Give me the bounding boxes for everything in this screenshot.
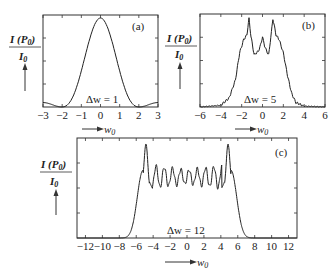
x-tick-label: 8 (252, 240, 258, 252)
x-tick-label: 4 (301, 109, 307, 121)
x-tick-label: 6 (235, 240, 241, 252)
x-tick-label: 0 (98, 109, 104, 121)
svg-text:w0: w0 (257, 123, 268, 137)
x-tick-label: −12 (77, 240, 94, 252)
svg-text:I0: I0 (18, 50, 27, 64)
y-axis-label-a: I (P0) I0 (9, 33, 41, 91)
x-tick-label: −2 (164, 240, 176, 252)
x-axis-label-c: w0 (165, 256, 208, 270)
x-axis-label-b: w0 (235, 123, 268, 137)
svg-text:I (P0): I (P0) (166, 32, 192, 46)
x-tick-label: −1 (75, 109, 87, 121)
panel-c: −12−10−8−6−4−2024681012 (c) Δw = 12 I (P… (40, 138, 297, 270)
x-tick-label: 2 (201, 240, 207, 252)
plot-frame-c (77, 138, 297, 238)
x-tick-label: −2 (56, 109, 68, 121)
annotation-b: Δw = 5 (244, 93, 277, 105)
x-tick-label: 12 (283, 240, 294, 252)
panel-a: −3−2−10123 (a) Δw = 1 I (P0) I0 w0 (9, 15, 161, 137)
x-tick-label: −4 (147, 240, 159, 252)
x-tick-label: −2 (236, 109, 248, 121)
svg-text:w0: w0 (197, 256, 208, 270)
x-tick-label: −4 (215, 109, 227, 121)
x-tick-label: 1 (117, 109, 123, 121)
x-tick-label: 0 (184, 240, 190, 252)
x-tick-label: 2 (136, 109, 142, 121)
x-tick-label: 10 (266, 240, 278, 252)
annotation-a: Δw = 1 (86, 93, 118, 105)
panel-label-a: (a) (132, 20, 145, 33)
x-tick-label: −6 (194, 109, 206, 121)
annotation-c: Δw = 12 (167, 224, 205, 236)
x-tick-label: 0 (260, 109, 266, 121)
x-tick-label: 4 (218, 240, 224, 252)
panel-label-b: (b) (302, 19, 315, 32)
y-axis-label-c: I (P0) I0 (40, 158, 72, 215)
panel-label-c: (c) (275, 146, 288, 159)
svg-text:I (P0): I (P0) (9, 33, 35, 47)
figure: −3−2−10123 (a) Δw = 1 I (P0) I0 w0 −6−4−… (0, 0, 329, 280)
x-axis-label-a: w0 (82, 123, 115, 137)
y-axis-label-b: I (P0) I0 (165, 32, 197, 89)
x-tick-label: −10 (94, 240, 112, 252)
svg-text:I (P0): I (P0) (40, 158, 66, 172)
svg-text:I0: I0 (174, 48, 183, 62)
x-tick-label: 2 (281, 109, 287, 121)
panel-b: −6−4−20246 (b) Δw = 5 I (P0) I0 w0 (165, 14, 328, 137)
x-tick-label: −6 (130, 240, 142, 252)
x-tick-label: 3 (155, 109, 161, 121)
x-tick-label: 6 (322, 109, 328, 121)
svg-text:w0: w0 (104, 123, 115, 137)
svg-text:I0: I0 (49, 175, 58, 189)
x-tick-label: −3 (37, 109, 49, 121)
x-tick-label: −8 (113, 240, 125, 252)
